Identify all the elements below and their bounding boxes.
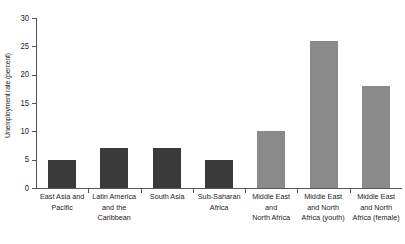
x-axis-line [36,188,402,189]
bar [257,131,285,188]
x-axis-category-label: Middle Eastand NorthAfrica (female) [350,192,402,224]
y-axis-tick [32,46,36,47]
y-axis-tick [32,75,36,76]
x-axis-category-label-line: Middle East [247,192,296,203]
bar [362,86,390,188]
x-axis-category-label-line: and [247,203,296,214]
y-axis-tick-label: 25 [4,42,29,51]
y-axis-tick [32,103,36,104]
y-axis-tick-label: 30 [4,14,29,23]
x-axis-category-label-line: South Asia [142,192,191,203]
bar [48,160,76,188]
bar [100,148,128,188]
bar [310,41,338,188]
x-axis-category-label-line: Sub-Saharan [195,192,244,203]
y-axis-line [36,18,37,188]
x-axis-category-label-line: and the [90,203,139,214]
unemployment-rate-bar-chart: Unemployment rate (percent) East Asia an… [0,0,405,244]
x-axis-category-label: East Asia andPacific [36,192,88,213]
y-axis-tick [32,160,36,161]
x-axis-category-label-line: North Africa [247,213,296,224]
x-axis-category-label-line: Middle East [299,192,348,203]
bar [153,148,181,188]
x-axis-category-label-line: Pacific [38,203,87,214]
x-axis-category-label-line: Caribbean [90,213,139,224]
y-axis-tick-label: 10 [4,127,29,136]
y-axis-tick [32,18,36,19]
y-axis-title-text: Unemployment rate (percent) [3,53,12,138]
bar [205,160,233,188]
plot-area [36,18,402,188]
x-axis-category-label-line: Africa (youth) [299,213,348,224]
x-axis-category-label-line: and North [299,203,348,214]
y-axis-tick-label: 15 [4,99,29,108]
y-axis-tick [32,188,36,189]
x-axis-labels: East Asia andPacificLatin Americaand the… [36,192,402,244]
x-axis-category-label-line: Latin America [90,192,139,203]
x-axis-category-label: South Asia [141,192,193,203]
x-axis-category-label: Latin Americaand theCaribbean [88,192,140,224]
x-axis-category-label: Middle EastandNorth Africa [245,192,297,224]
x-axis-category-label: Middle Eastand NorthAfrica (youth) [297,192,349,224]
x-axis-category-label: Sub-SaharanAfrica [193,192,245,213]
x-axis-category-label-line: East Asia and [38,192,87,203]
y-axis-tick-label: 5 [4,155,29,164]
y-axis-tick-label: 0 [4,184,29,193]
x-axis-category-label-line: Africa (female) [352,213,401,224]
x-axis-category-label-line: Africa [195,203,244,214]
x-axis-category-label-line: and North [352,203,401,214]
x-axis-category-label-line: Middle East [352,192,401,203]
y-axis-tick-label: 20 [4,70,29,79]
y-axis-tick [32,131,36,132]
